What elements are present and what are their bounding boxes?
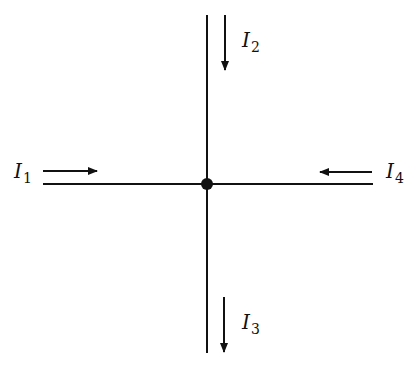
current-label-i1: I1 bbox=[13, 159, 32, 186]
current-label-i4: I4 bbox=[385, 159, 404, 186]
current-label-i2: I2 bbox=[241, 28, 260, 55]
junction-node bbox=[201, 178, 213, 190]
current-label-i3: I3 bbox=[241, 310, 260, 337]
junction-diagram: I1 I2 I3 I4 bbox=[0, 0, 404, 374]
